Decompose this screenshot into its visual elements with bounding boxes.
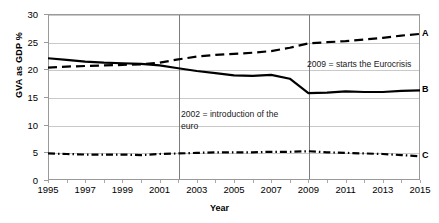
series-end-label-A: A	[422, 28, 429, 38]
series-line-C	[48, 151, 420, 156]
series-end-label-B: B	[422, 84, 429, 94]
chart-container: GVA as GDP % Year 0510152025301995199719…	[0, 0, 439, 223]
annotation-text-eurocrisis-start: 2009 = starts the Eurocrisis	[307, 58, 433, 70]
series-end-label-C: C	[422, 150, 429, 160]
annotation-text-euro-introduction: 2002 = introduction of the euro	[181, 108, 301, 132]
